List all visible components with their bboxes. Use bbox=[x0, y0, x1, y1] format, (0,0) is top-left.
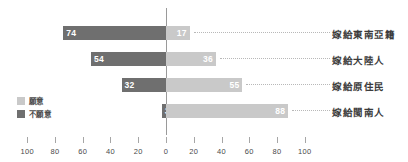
axis-tick-label: 80 bbox=[50, 147, 59, 156]
category-label: 嫁給閩南人 bbox=[332, 105, 385, 119]
bar-value-unwilling: 54 bbox=[94, 53, 104, 65]
bar-value-unwilling: 74 bbox=[66, 27, 76, 39]
axis-tick bbox=[249, 137, 250, 143]
axis-tick-label: 100 bbox=[298, 147, 311, 156]
bar-unwilling[interactable]: 32 bbox=[122, 78, 166, 92]
chart-legend: 願意 不願意 bbox=[17, 95, 51, 121]
category-label: 嫁給東南亞籍 bbox=[332, 27, 395, 41]
bar-willing[interactable]: 36 bbox=[166, 52, 216, 66]
bar-willing[interactable]: 17 bbox=[166, 26, 190, 40]
legend-label: 不願意 bbox=[29, 108, 51, 119]
axis-tick-label: 20 bbox=[189, 147, 198, 156]
axis-tick-label: 40 bbox=[106, 147, 115, 156]
leader-line bbox=[194, 32, 330, 34]
axis-tick-label: 100 bbox=[20, 147, 33, 156]
axis-tick bbox=[110, 137, 111, 143]
axis-tick-label: 60 bbox=[245, 147, 254, 156]
legend-swatch-icon bbox=[17, 97, 25, 105]
bar-value-unwilling: 32 bbox=[125, 79, 135, 91]
legend-label: 願意 bbox=[29, 95, 44, 106]
axis-tick-label: 80 bbox=[273, 147, 282, 156]
legend-item-unwilling[interactable]: 不願意 bbox=[17, 108, 51, 119]
axis-tick bbox=[166, 137, 167, 143]
legend-item-willing[interactable]: 願意 bbox=[17, 95, 51, 106]
axis-tick bbox=[55, 137, 56, 143]
leader-line bbox=[246, 84, 330, 86]
axis-tick bbox=[194, 137, 195, 143]
diverging-bar-chart: 74 17 嫁給東南亞籍 54 36 嫁給大陸人 32 55 嫁給原住民 3 bbox=[0, 0, 408, 162]
axis-tick bbox=[222, 137, 223, 143]
axis-tick-label: 0 bbox=[164, 147, 168, 156]
axis-tick bbox=[83, 137, 84, 143]
bar-unwilling[interactable]: 74 bbox=[63, 26, 166, 40]
bar-value-willing: 88 bbox=[275, 105, 285, 117]
axis-tick bbox=[27, 137, 28, 143]
bar-value-willing: 36 bbox=[203, 53, 213, 65]
axis-tick bbox=[277, 137, 278, 143]
axis-tick bbox=[305, 137, 306, 143]
leader-line bbox=[292, 110, 330, 112]
axis-tick-label: 60 bbox=[78, 147, 87, 156]
bar-value-willing: 17 bbox=[177, 27, 187, 39]
bar-value-willing: 55 bbox=[229, 79, 239, 91]
legend-swatch-icon bbox=[17, 110, 25, 118]
category-label: 嫁給大陸人 bbox=[332, 53, 385, 67]
bar-unwilling[interactable]: 54 bbox=[91, 52, 166, 66]
axis-tick-label: 20 bbox=[134, 147, 143, 156]
leader-line bbox=[220, 58, 330, 60]
axis-tick bbox=[138, 137, 139, 143]
bar-willing[interactable]: 55 bbox=[166, 78, 242, 92]
bar-willing[interactable]: 88 bbox=[166, 104, 288, 118]
axis-tick-label: 40 bbox=[217, 147, 226, 156]
category-label: 嫁給原住民 bbox=[332, 79, 385, 93]
